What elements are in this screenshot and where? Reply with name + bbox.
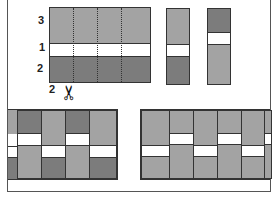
cut-line <box>121 8 122 82</box>
strip-1 <box>50 44 150 57</box>
cut-line <box>73 8 74 82</box>
cut-line <box>97 8 98 82</box>
assembled-block-shaded <box>8 109 118 180</box>
cut-segment-b-flipped <box>207 8 231 85</box>
assembled-block-uniform <box>140 109 270 180</box>
strip-label-1: 1 <box>39 41 45 53</box>
cut-width-label: 2 <box>49 83 55 95</box>
strip-label-3: 3 <box>38 14 44 26</box>
cut-segment-a <box>166 8 190 85</box>
strip-2 <box>50 57 150 82</box>
strip-set <box>49 7 151 83</box>
strip-label-2: 2 <box>37 62 43 74</box>
strip-3 <box>50 8 150 44</box>
scissors-icon: ✂ <box>57 84 81 101</box>
